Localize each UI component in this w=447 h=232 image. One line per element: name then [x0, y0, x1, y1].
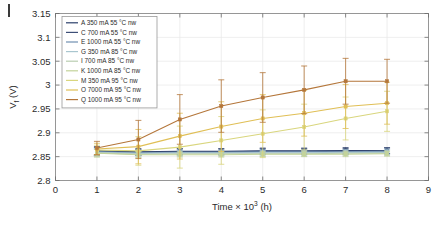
x-tick-label: 2 — [136, 184, 141, 195]
data-point — [344, 80, 347, 83]
x-tick-label: 7 — [343, 184, 348, 195]
x-tick-label: 3 — [177, 184, 182, 195]
y-tick-label: 2.8 — [37, 175, 50, 186]
x-tick-label: 4 — [219, 184, 224, 195]
y-axis-title: Vf (V) — [7, 85, 20, 109]
legend-label: E 1000 mA 55 °C nw — [81, 38, 140, 45]
x-tick-label: 8 — [384, 184, 389, 195]
y-tick-label: 2.9 — [37, 127, 50, 138]
x-tick-label: 6 — [302, 184, 307, 195]
series-line — [97, 111, 387, 151]
y-tick-label: 2.85 — [32, 151, 51, 162]
data-point — [261, 96, 264, 99]
x-tick-label: 0 — [53, 184, 58, 195]
y-tick-label: 2.95 — [32, 103, 51, 114]
y-tick-label: 3.15 — [32, 8, 51, 19]
x-tick-label: 5 — [260, 184, 265, 195]
y-tick-label: 3 — [45, 79, 50, 90]
y-tick-label: 3.1 — [37, 32, 50, 43]
line-chart: 01234567892.82.852.92.9533.053.13.15 A 3… — [0, 0, 447, 232]
legend-label: O 7000 mA 95 °C nw — [81, 86, 141, 93]
data-point — [303, 88, 306, 91]
legend-label: M 350 mA 95 °C nw — [81, 77, 138, 84]
data-point — [344, 105, 347, 108]
legend-label: C 700 mA 55 °C nw — [81, 29, 137, 36]
data-point — [95, 146, 98, 149]
legend-label: G 350 mA 85 °C nw — [81, 48, 138, 55]
legend-label: A 350 mA 55 °C nw — [81, 19, 137, 26]
data-point — [220, 104, 223, 107]
data-point — [178, 118, 181, 121]
legend-label: I 700 mA 85 °C nw — [81, 57, 134, 64]
data-point — [303, 153, 306, 156]
data-point — [344, 153, 347, 156]
x-axis-title: Time × 103 (h) — [212, 200, 272, 211]
x-tick-label: 9 — [426, 184, 431, 195]
x-tick-label: 1 — [94, 184, 99, 195]
legend[interactable]: A 350 mA 55 °C nwC 700 mA 55 °C nwE 1000… — [62, 17, 157, 108]
y-tick-label: 3.05 — [32, 56, 51, 67]
data-point — [385, 152, 388, 155]
series-line — [97, 103, 387, 149]
legend-label: K 1000 mA 85 °C nw — [81, 67, 140, 74]
data-point — [137, 138, 140, 141]
legend-label: Q 1000 mA 95 °C nw — [81, 96, 141, 104]
data-point — [385, 80, 388, 83]
figure-panel: 01234567892.82.852.92.9533.053.13.15 A 3… — [0, 0, 447, 232]
